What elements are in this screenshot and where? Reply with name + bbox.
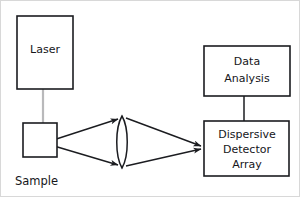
focus-ray-lower <box>126 149 201 166</box>
spectrometer-schematic: Laser Sample Data Analysis Dispersive De… <box>1 1 300 197</box>
detector-label-line3: Array <box>232 158 262 171</box>
detector-label-line2: Detector <box>223 143 271 156</box>
focus-ray-upper <box>126 118 201 146</box>
data-analysis-label-line1: Data <box>234 55 260 68</box>
sample-caption-label: Sample <box>15 174 58 188</box>
sample-box[interactable] <box>23 123 57 157</box>
data-analysis-label-line2: Analysis <box>224 72 270 85</box>
diagram-canvas: Laser Sample Data Analysis Dispersive De… <box>0 0 300 197</box>
laser-box-label: Laser <box>30 43 60 56</box>
detector-label-line1: Dispersive <box>218 128 276 141</box>
collecting-lens-icon <box>117 116 128 168</box>
data-analysis-box[interactable] <box>204 46 290 96</box>
